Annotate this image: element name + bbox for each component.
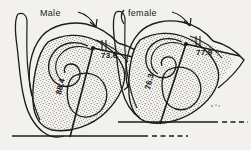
male-upper-angle-value: 73.6: [101, 51, 118, 60]
male-vertex-point: [91, 46, 95, 50]
pelvis-comparison-figure: Male 73.6 88.4 female 77.9 76.3: [0, 0, 251, 150]
female-label: female: [128, 8, 157, 18]
female-upper-angle-value: 77.9: [196, 48, 213, 57]
female-vertex-point: [184, 42, 188, 46]
male-label: Male: [40, 8, 61, 18]
